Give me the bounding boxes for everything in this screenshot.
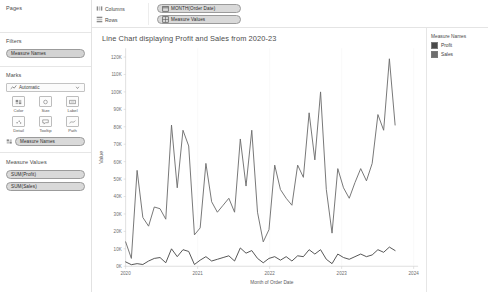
marks-button-detail[interactable]: Detail xyxy=(6,116,31,133)
y-axis-tick-label: 110K xyxy=(111,72,122,77)
chart-title: Line Chart displaying Profit and Sales f… xyxy=(96,31,424,45)
rows-pill-measure-values[interactable]: Measure Values xyxy=(157,15,241,24)
measure-value-label: SUM(Profit) xyxy=(11,172,36,177)
rows-shelf-label-wrap: Rows xyxy=(96,16,148,23)
marks-button-label: Color xyxy=(13,108,23,113)
viz-canvas: Line Chart displaying Profit and Sales f… xyxy=(92,28,488,292)
rows-icon xyxy=(96,16,103,23)
columns-shelf[interactable]: Columns MONTH(Order Date) xyxy=(92,3,488,14)
columns-pill-order-date[interactable]: MONTH(Order Date) xyxy=(157,4,241,13)
calendar-icon xyxy=(162,5,169,12)
marks-button-label: Path xyxy=(68,128,77,133)
rows-dropzone[interactable]: Measure Values xyxy=(148,14,484,25)
pages-panel[interactable]: Pages xyxy=(0,0,91,33)
y-axis-tick-label: 120K xyxy=(111,55,122,60)
filter-pill-measure-names[interactable]: Measure Names xyxy=(6,49,85,58)
y-axis-title: Value xyxy=(99,151,104,164)
measure-value-label: SUM(Sales) xyxy=(11,184,37,189)
marks-button-size[interactable]: Size xyxy=(33,96,58,113)
legend-item-profit[interactable]: Profit xyxy=(431,42,484,49)
plot-container[interactable]: 0K10K20K30K40K50K60K70K80K90K100K110K120… xyxy=(96,44,422,290)
marks-button-path[interactable]: Path xyxy=(60,116,85,133)
line-mark-icon xyxy=(10,84,17,91)
x-axis-tick-label: 2021 xyxy=(193,271,203,276)
color-icon xyxy=(12,96,25,107)
filters-title: Filters xyxy=(6,38,85,45)
x-axis-tick-label: 2022 xyxy=(265,271,275,276)
mark-type-label: Automatic xyxy=(19,85,39,90)
columns-pill-label: MONTH(Order Date) xyxy=(171,6,215,11)
size-icon xyxy=(39,96,52,107)
y-axis-tick-label: 100K xyxy=(111,90,122,95)
legend-item-label: Profit xyxy=(441,43,452,48)
columns-shelf-label-wrap: Columns xyxy=(96,5,148,12)
measure-values-panel: Measure Values SUM(Profit) SUM(Sales) xyxy=(0,153,91,200)
left-sidebar: Pages Filters Measure Names Marks Automa… xyxy=(0,0,92,292)
filter-pill-label: Measure Names xyxy=(11,51,46,56)
marks-title: Marks xyxy=(6,72,85,79)
legend-panel: Measure Names Profit Sales xyxy=(426,28,488,292)
y-axis-tick-label: 20K xyxy=(114,229,123,234)
y-axis-tick-label: 50K xyxy=(114,177,123,182)
marks-button-label[interactable]: Label xyxy=(60,96,85,113)
legend-swatch xyxy=(431,42,438,49)
x-axis-tick-label: 2024 xyxy=(409,271,419,276)
marks-card: Marks Automatic Color xyxy=(0,67,91,153)
color-encoding-icon xyxy=(6,138,13,145)
marks-button-label: Tooltip xyxy=(39,128,51,133)
pages-title: Pages xyxy=(6,5,85,12)
mark-type-select[interactable]: Automatic xyxy=(6,83,85,92)
marks-button-label: Label xyxy=(67,108,77,113)
line-chart[interactable]: 0K10K20K30K40K50K60K70K80K90K100K110K120… xyxy=(96,44,422,290)
legend-title: Measure Names xyxy=(431,34,484,39)
series-line-sales[interactable] xyxy=(126,59,395,259)
tooltip-icon xyxy=(39,116,52,127)
measure-value-pill-profit[interactable]: SUM(Profit) xyxy=(6,170,85,179)
marks-button-label: Size xyxy=(41,108,49,113)
legend-swatch xyxy=(431,51,438,58)
y-axis-tick-label: 90K xyxy=(114,107,123,112)
shelf-area: Columns MONTH(Order Date) Rows xyxy=(92,0,488,28)
worksheet-main: Columns MONTH(Order Date) Rows xyxy=(92,0,488,292)
marks-button-color[interactable]: Color xyxy=(6,96,31,113)
measure-value-pill-sales[interactable]: SUM(Sales) xyxy=(6,182,85,191)
legend-item-label: Sales xyxy=(441,52,453,57)
tableau-worksheet: Pages Filters Measure Names Marks Automa… xyxy=(0,0,488,292)
rows-shelf[interactable]: Rows Measure Values xyxy=(92,14,488,25)
columns-icon xyxy=(96,5,103,12)
pages-dropzone[interactable] xyxy=(6,16,85,32)
viz-area: Line Chart displaying Profit and Sales f… xyxy=(92,28,426,292)
y-axis-tick-label: 80K xyxy=(114,125,123,130)
y-axis-tick-label: 40K xyxy=(114,194,123,199)
x-axis-title: Month of Order Date xyxy=(250,279,293,284)
path-icon xyxy=(66,116,79,127)
rows-shelf-label: Rows xyxy=(105,17,118,23)
measure-values-title: Measure Values xyxy=(6,159,85,166)
x-axis-tick-label: 2020 xyxy=(121,271,131,276)
y-axis-tick-label: 60K xyxy=(114,159,123,164)
series-line-profit[interactable] xyxy=(126,247,395,265)
y-axis-tick-label: 10K xyxy=(114,247,123,252)
grid-icon xyxy=(162,16,169,23)
y-axis-tick-label: 70K xyxy=(114,142,123,147)
marks-button-label: Detail xyxy=(13,128,24,133)
legend-item-sales[interactable]: Sales xyxy=(431,51,484,58)
y-axis-tick-label: 0K xyxy=(116,264,122,269)
marks-buttons: Color Size Label xyxy=(6,96,85,133)
filters-panel[interactable]: Filters Measure Names xyxy=(0,33,91,67)
marks-pill-measure-names[interactable]: Measure Names xyxy=(15,137,85,146)
marks-button-tooltip[interactable]: Tooltip xyxy=(33,116,58,133)
detail-icon xyxy=(12,116,25,127)
label-icon xyxy=(66,96,79,107)
marks-encoding-row: Measure Names xyxy=(6,137,85,146)
rows-pill-label: Measure Values xyxy=(171,17,205,22)
marks-pill-label: Measure Names xyxy=(20,139,55,144)
chevron-down-icon[interactable] xyxy=(74,84,81,91)
columns-shelf-label: Columns xyxy=(105,6,125,12)
columns-dropzone[interactable]: MONTH(Order Date) xyxy=(148,3,484,14)
y-axis-tick-label: 30K xyxy=(114,212,123,217)
x-axis-tick-label: 2023 xyxy=(337,271,347,276)
